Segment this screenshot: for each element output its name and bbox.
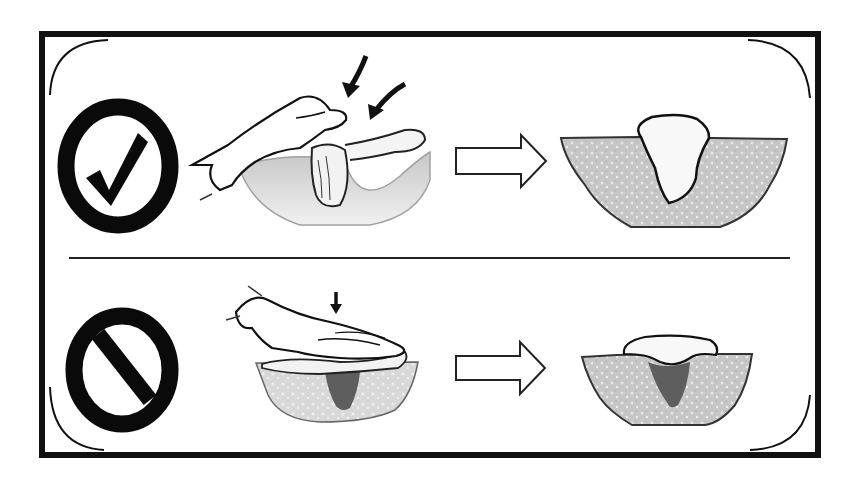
push-arrow-icon [330,292,342,314]
row-incorrect [74,286,752,425]
prohibited-icon [74,316,170,424]
push-arrow-icon [368,84,405,120]
packing-correct-result-illustration [561,115,787,227]
check-circle-icon [66,107,170,225]
wound-packing-diagram [0,0,866,489]
packing-incorrect-result-illustration [582,336,752,425]
right-arrow-outline-icon [456,135,546,187]
packing-incorrect-action-illustration [226,286,418,422]
packing-correct-action-illustration [192,56,430,225]
push-arrow-icon [342,56,366,98]
right-arrow-outline-icon [456,342,545,394]
row-correct [66,56,787,227]
